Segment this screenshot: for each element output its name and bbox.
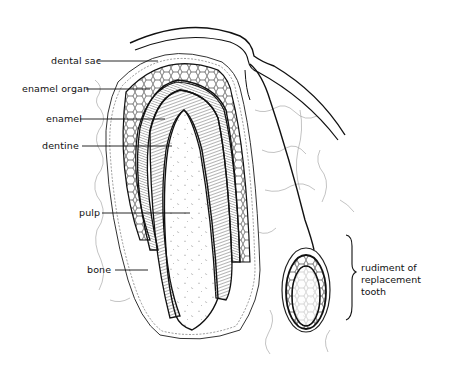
replacement-tooth-rudiment (282, 248, 330, 332)
label-rudiment-line-2: replacement (361, 274, 421, 286)
label-enamel: enamel (46, 113, 82, 124)
label-rudiment-line-1: rudiment of (361, 262, 421, 274)
label-enamel-organ: enamel organ (22, 83, 89, 94)
label-dentine: dentine (42, 140, 79, 151)
label-rudiment-line-3: tooth (361, 286, 421, 298)
label-rudiment-of-replacement-tooth: rudiment of replacement tooth (361, 262, 421, 298)
label-pulp: pulp (79, 207, 100, 218)
label-bone: bone (87, 264, 111, 275)
label-dental-sac: dental sac (51, 55, 101, 66)
rudiment-brace (346, 235, 356, 320)
